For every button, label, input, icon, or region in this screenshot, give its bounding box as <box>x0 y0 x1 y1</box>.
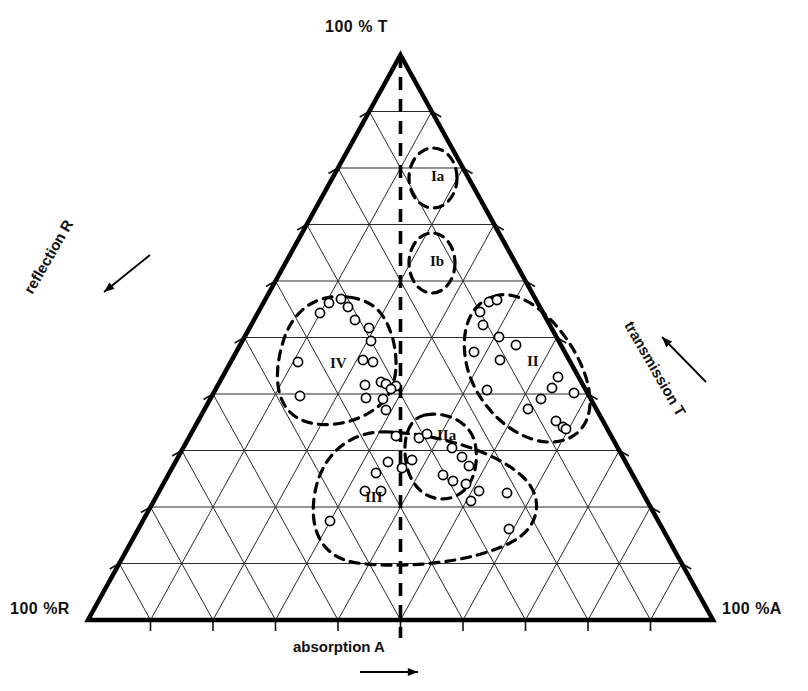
region-label-iia: IIa <box>437 427 456 444</box>
figure-canvas: 100 % T 100 %R 100 %A absorption A refle… <box>0 0 808 691</box>
vertex-label-bottom-right: 100 %A <box>722 600 782 618</box>
region-label-iv: IV <box>330 355 347 372</box>
region-label-iii: III <box>365 489 383 506</box>
arrow-down-left-icon <box>104 255 150 292</box>
arrow-right-icon <box>360 668 418 676</box>
region-label-ia: Ia <box>431 168 444 185</box>
region-label-ii: II <box>527 353 539 370</box>
region-label-ib: Ib <box>430 253 444 270</box>
ternary-plot <box>0 0 808 691</box>
region-boundaries <box>277 148 590 565</box>
vertex-label-top: 100 % T <box>325 18 388 36</box>
vertex-label-bottom-left: 100 %R <box>10 600 70 618</box>
axis-label-absorption: absorption A <box>293 638 385 655</box>
